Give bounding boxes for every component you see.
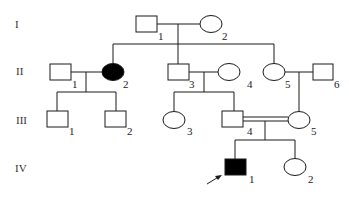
II-1-male xyxy=(50,64,71,80)
III-3-female xyxy=(163,112,185,129)
generation-label-I: I xyxy=(15,19,19,30)
IV-1-male-affected-proband xyxy=(225,159,246,175)
label-II-2: 2 xyxy=(123,79,129,90)
label-III-2: 2 xyxy=(127,126,133,137)
label-III-3: 3 xyxy=(187,126,193,137)
label-I-2: 2 xyxy=(222,31,228,42)
label-III-1: 1 xyxy=(69,126,75,137)
I-1-male xyxy=(136,16,157,32)
III-1-male xyxy=(47,111,68,127)
II-4-female xyxy=(218,64,240,81)
label-II-6: 6 xyxy=(334,79,340,90)
II-3-male xyxy=(168,64,189,80)
label-II-1: 1 xyxy=(72,79,78,90)
label-II-5: 5 xyxy=(285,79,291,90)
II-2-female-affected xyxy=(102,64,124,81)
label-IV-2: 2 xyxy=(308,174,314,185)
pedigree-diagram xyxy=(0,0,349,198)
IV-2-female xyxy=(284,159,306,176)
label-IV-1: 1 xyxy=(249,174,255,185)
II-5-female xyxy=(263,64,285,81)
III-2-male xyxy=(105,111,126,127)
III-4-male xyxy=(222,111,243,127)
label-II-4: 4 xyxy=(247,79,253,90)
generation-label-III: III xyxy=(16,115,27,126)
generation-label-II: II xyxy=(16,66,23,77)
II-6-male xyxy=(313,64,333,80)
generation-label-IV: IV xyxy=(15,163,27,174)
label-III-4: 4 xyxy=(247,126,253,137)
label-I-1: 1 xyxy=(158,31,164,42)
proband-arrow-icon xyxy=(207,175,222,184)
label-III-5: 5 xyxy=(311,126,317,137)
III-5-female xyxy=(288,112,310,129)
label-II-3: 3 xyxy=(189,79,195,90)
I-2-female xyxy=(200,16,222,33)
